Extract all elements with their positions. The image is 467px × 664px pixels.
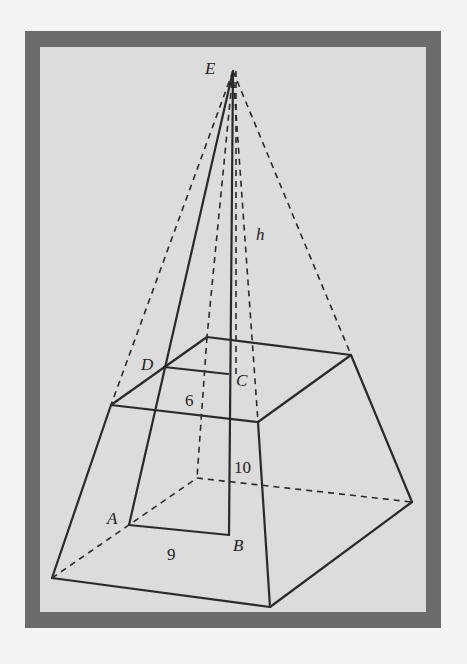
edge-EA (129, 71, 233, 525)
vertex-label-A: A (107, 510, 117, 527)
vertex-label-B: B (233, 537, 243, 554)
lateral-edge-right (351, 355, 412, 502)
lateral-edge-left (52, 405, 111, 578)
height-label-h: h (256, 226, 265, 243)
hidden-back-edge (197, 337, 207, 478)
lateral-edge-front (258, 422, 270, 607)
vertex-label-C: C (236, 372, 247, 389)
vertex-label-D: D (141, 356, 153, 373)
extension-left (111, 71, 233, 405)
segment-DC (164, 367, 228, 374)
frustum-bottom-hidden (52, 478, 412, 578)
vertex-label-E: E (205, 60, 215, 77)
slant-length-label: 10 (234, 459, 251, 476)
segment-AB (129, 525, 229, 535)
extension-back (207, 71, 233, 337)
pyramid-diagram (0, 0, 467, 664)
edge-EB (229, 71, 233, 535)
bottom-length-label: 9 (167, 546, 176, 563)
frustum-bottom-front (52, 502, 412, 607)
top-length-label: 6 (185, 392, 194, 409)
